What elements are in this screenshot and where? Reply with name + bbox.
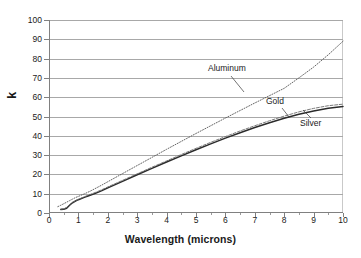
series-label-aluminum: Aluminum	[208, 64, 246, 73]
series-layer	[0, 0, 361, 258]
leader-line-aluminum	[231, 76, 244, 92]
chart-figure: k 0102030405060708090100 012345678910 Wa…	[0, 0, 361, 258]
series-label-gold: Gold	[266, 97, 284, 106]
series-label-silver: Silver	[300, 119, 321, 128]
